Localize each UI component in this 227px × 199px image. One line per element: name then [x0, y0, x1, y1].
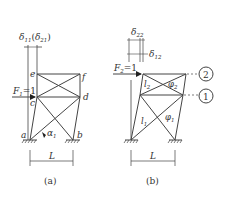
l1-label: l1 [141, 116, 147, 127]
node-a-label: a [21, 130, 26, 140]
phi1-label: φ1 [165, 112, 174, 123]
caption-b: (b) [146, 176, 159, 186]
panel-a [12, 45, 80, 166]
delta-11-label: δ11(δ21) [19, 32, 51, 43]
node-d-label: d [83, 92, 89, 102]
node-b-label: b [77, 130, 83, 140]
force-f2-label: F2=1 [113, 63, 137, 74]
node-e-label: e [30, 69, 35, 79]
force-f1-label: F1=1 [12, 86, 36, 97]
caption-a: (a) [44, 176, 56, 186]
panel-b [113, 38, 213, 166]
node-c-label: c [30, 98, 35, 108]
phi2-label: φ2 [168, 79, 178, 90]
angle-alpha1-label: α1 [47, 128, 57, 139]
delta-12-label: δ12 [149, 49, 162, 60]
span-l-label-a: L [48, 151, 55, 161]
structural-diagram: δ11(δ21) e f c d a b F1=1 α1 L (a) [0, 0, 227, 199]
l2-label: l2 [144, 79, 151, 90]
span-l-label-b: L [149, 151, 156, 161]
node-f-label: f [81, 72, 87, 82]
level-2-label: 2 [203, 70, 209, 80]
level-1-label: 1 [203, 92, 209, 102]
delta-22-label: δ22 [131, 27, 144, 38]
